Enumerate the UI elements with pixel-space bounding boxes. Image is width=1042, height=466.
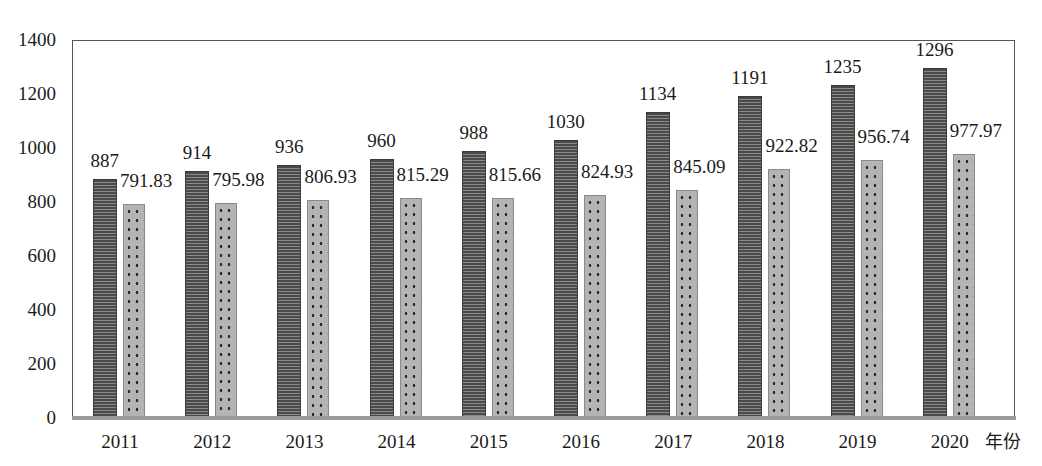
bar-series-2 — [768, 169, 790, 418]
x-tick-label: 2018 — [735, 431, 795, 453]
bar-series-2 — [861, 160, 883, 418]
x-tick-label: 2016 — [551, 431, 611, 453]
bar-series-2 — [400, 198, 422, 418]
data-label-series-1: 914 — [183, 143, 212, 163]
x-tick-label: 2017 — [643, 431, 703, 453]
bar-series-2 — [215, 203, 237, 418]
data-label-series-2: 845.09 — [673, 157, 725, 177]
bar-series-1 — [554, 140, 578, 418]
data-label-series-2: 815.29 — [397, 165, 449, 185]
data-label-series-1: 887 — [91, 151, 120, 171]
x-tick-label: 2014 — [367, 431, 427, 453]
y-tick-label: 600 — [0, 246, 56, 266]
y-tick-label: 1000 — [0, 138, 56, 158]
data-label-series-2: 956.74 — [858, 127, 910, 147]
x-tick-label: 2012 — [182, 431, 242, 453]
x-tick-label: 2013 — [274, 431, 334, 453]
data-label-series-1: 960 — [367, 131, 396, 151]
bar-series-1 — [185, 171, 209, 418]
y-tick-label: 1200 — [0, 84, 56, 104]
data-label-series-1: 1235 — [823, 57, 861, 77]
bar-series-2 — [676, 190, 698, 418]
data-label-series-1: 936 — [275, 137, 304, 157]
bar-series-2 — [307, 200, 329, 418]
bar-series-2 — [953, 154, 975, 418]
bar-series-1 — [738, 96, 762, 418]
chart-title-cropped — [0, 0, 1042, 2]
bar-series-1 — [923, 68, 947, 418]
data-label-series-1: 988 — [459, 123, 488, 143]
y-tick-label: 0 — [0, 408, 56, 428]
bar-series-2 — [492, 198, 514, 418]
data-label-series-1: 1030 — [547, 112, 585, 132]
data-label-series-1: 1296 — [916, 40, 954, 60]
x-axis-unit-label: 年份 — [985, 431, 1021, 453]
bar-series-2 — [123, 204, 145, 418]
x-tick-label: 2011 — [90, 431, 150, 453]
y-tick-label: 1400 — [0, 30, 56, 50]
data-label-series-1: 1191 — [731, 68, 768, 88]
x-axis-line — [72, 416, 1016, 420]
x-tick-label: 2015 — [459, 431, 519, 453]
data-label-series-2: 806.93 — [304, 167, 356, 187]
bar-series-1 — [831, 85, 855, 418]
bar-series-1 — [646, 112, 670, 418]
data-label-series-2: 815.66 — [489, 165, 541, 185]
bar-series-2 — [584, 195, 606, 418]
bar-series-1 — [93, 179, 117, 418]
bar-series-1 — [277, 165, 301, 418]
data-label-series-2: 922.82 — [765, 136, 817, 156]
data-label-series-2: 977.97 — [950, 121, 1002, 141]
y-tick-label: 400 — [0, 300, 56, 320]
bar-series-1 — [462, 151, 486, 418]
data-label-series-2: 795.98 — [212, 170, 264, 190]
data-label-series-1: 1134 — [639, 84, 676, 104]
bar-series-1 — [370, 159, 394, 418]
data-label-series-2: 791.83 — [120, 171, 172, 191]
x-tick-label: 2020 — [920, 431, 980, 453]
y-tick-label: 800 — [0, 192, 56, 212]
y-tick-label: 200 — [0, 354, 56, 374]
x-tick-label: 2019 — [828, 431, 888, 453]
data-label-series-2: 824.93 — [581, 162, 633, 182]
